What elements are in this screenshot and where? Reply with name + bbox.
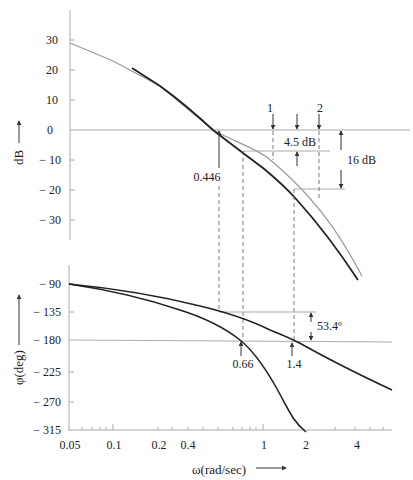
- phase-tick-m180: − 180: [33, 333, 61, 347]
- phase-panel: − 90 − 135 − 180 − 225 − 270 − 315 φ(deg…: [11, 265, 392, 477]
- x-tick-1: 1: [261, 438, 267, 452]
- annotation-4.5db: 4.5 dB: [284, 135, 316, 149]
- phase-tick-m225: − 225: [33, 365, 61, 379]
- annotation-14: 1.4: [287, 357, 302, 371]
- x-tick-labels: 0.05 0.1 0.2 0.4 1 2 4: [60, 438, 361, 452]
- x-tick-2: 2: [303, 438, 309, 452]
- phase-axis-title: φ(deg): [11, 295, 26, 385]
- svg-text:ω(rad/sec): ω(rad/sec): [192, 462, 246, 477]
- magnitude-panel: 30 20 10 0 − 10 − 20 − 30 dB 1 2 4.5 dB: [11, 10, 410, 340]
- phase-tick-labels: − 90 − 135 − 180 − 225 − 270 − 315: [33, 277, 61, 437]
- phase-tick-m270: − 270: [33, 395, 61, 409]
- magnitude-curve-black: [132, 68, 358, 280]
- annotation-16db: 16 dB: [347, 153, 376, 167]
- x-tick-0.4: 0.4: [181, 438, 196, 452]
- db-tick-m10: − 10: [39, 153, 61, 167]
- phase-tick-m135: − 135: [33, 305, 61, 319]
- phase-tick-m315: − 315: [33, 423, 61, 437]
- annotation-1: 1: [267, 101, 273, 115]
- phase-tick-m90: − 90: [39, 277, 61, 291]
- x-tick-0.1: 0.1: [107, 438, 122, 452]
- db-tick-20: 20: [46, 63, 58, 77]
- db-tick-30: 30: [46, 33, 58, 47]
- db-tick-0: 0: [47, 123, 53, 137]
- bode-plot: 30 20 10 0 − 10 − 20 − 30 dB 1 2 4.5 dB: [0, 0, 413, 480]
- svg-text:φ(deg): φ(deg): [11, 350, 26, 385]
- annotation-0446: 0.446: [194, 170, 221, 184]
- db-tick-m30: − 30: [39, 213, 61, 227]
- x-tick-4: 4: [354, 438, 360, 452]
- phase-curve-lower: [69, 284, 306, 432]
- x-tick-0.2: 0.2: [152, 438, 167, 452]
- db-tick-10: 10: [46, 93, 58, 107]
- db-tick-m20: − 20: [39, 183, 61, 197]
- annotation-2: 2: [317, 101, 323, 115]
- dashed-guides: [219, 131, 319, 340]
- db-tick-labels: 30 20 10 0 − 10 − 20 − 30: [39, 33, 61, 227]
- minus-180-line: [69, 340, 392, 342]
- x-ticks: [82, 424, 383, 430]
- phase-curve-upper: [69, 284, 392, 390]
- db-axis-title: dB: [11, 121, 26, 165]
- annotation-53.4deg: 53.4º: [317, 319, 342, 333]
- magnitude-curve-gray: [70, 43, 362, 276]
- svg-text:dB: dB: [11, 150, 26, 166]
- phase-ticks: [69, 284, 74, 402]
- x-axis-title: ω(rad/sec): [192, 462, 286, 477]
- annotation-066: 0.66: [233, 357, 254, 371]
- x-tick-0.05: 0.05: [60, 438, 81, 452]
